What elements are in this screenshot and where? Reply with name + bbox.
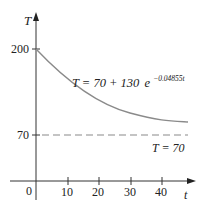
curve-equation-main: T = 70 + 130 [72,76,140,90]
curve-equation-exponent: −0.04855t [153,74,185,83]
asymptote-label: T = 70 [152,141,185,155]
y-axis-arrow-icon [33,12,39,21]
x-label-30: 30 [124,185,136,199]
curve-equation: T = 70 + 130 e −0.04855t [72,74,186,90]
y-label-70: 70 [17,128,29,142]
y-axis-label: T [24,13,32,28]
x-label-40: 40 [155,185,167,199]
x-label-20: 20 [92,185,104,199]
chart: T t 0 200 70 10 20 30 40 T = 70 + 130 e … [0,0,204,212]
curve-equation-e: e [144,76,150,90]
x-axis-label: t [184,188,188,202]
origin-label: 0 [26,184,32,198]
y-label-200: 200 [11,42,29,56]
x-axis-arrow-icon [187,178,196,184]
x-label-10: 10 [61,185,73,199]
